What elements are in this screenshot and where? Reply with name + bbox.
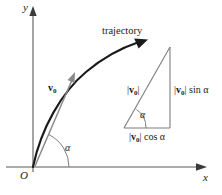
opposite-side-label: |v0| sin α (174, 85, 208, 97)
launch-angle-label: α (65, 143, 70, 153)
adjacent-side-label: |v0| cos α (129, 132, 165, 144)
projectile-trajectory-figure: y x O trajectory v0 α α |v0| |v0| sin α … (0, 0, 222, 195)
velocity-subscript: 0 (53, 87, 57, 95)
x-axis-label: x (203, 172, 208, 183)
origin-label: O (20, 170, 28, 181)
velocity-vector-label: v0 (48, 83, 57, 95)
sin-alpha-text: sin α (189, 84, 208, 95)
y-axis (29, 6, 36, 172)
cos-alpha-text: cos α (144, 131, 165, 142)
hypotenuse-magnitude-label: |v0| (127, 85, 140, 97)
trajectory-label: trajectory (102, 26, 142, 37)
triangle-angle-label: α (140, 110, 145, 120)
trajectory-curve (33, 39, 148, 167)
y-axis-label: y (23, 2, 28, 13)
bar-close-hyp: | (138, 84, 140, 95)
